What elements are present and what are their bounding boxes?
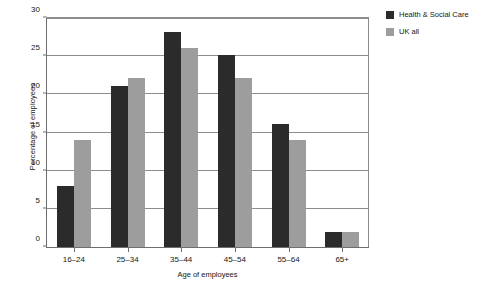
bar-groups: 16–2425–3435–4445–5455–6465+ — [47, 18, 369, 247]
bar-group: 16–24 — [47, 18, 101, 247]
bar — [181, 48, 198, 247]
bar-group: 25–34 — [101, 18, 155, 247]
bar-group: 35–44 — [154, 18, 208, 247]
legend-swatch-icon — [386, 11, 394, 19]
y-tick-label: 25 — [31, 43, 40, 52]
y-tick-label: 5 — [36, 195, 40, 204]
x-tick-label: 25–34 — [116, 255, 138, 264]
legend: Health & Social CareUK all — [386, 10, 476, 43]
x-tick-label: 16–24 — [63, 255, 85, 264]
bar — [342, 232, 359, 247]
bar — [74, 140, 91, 247]
y-tick-label: 10 — [31, 157, 40, 166]
bar-chart: Percentage of employees 051015202530 16–… — [0, 0, 479, 296]
legend-item[interactable]: Health & Social Care — [386, 10, 476, 20]
x-tick-label: 45–54 — [224, 255, 246, 264]
bar-group: 55–64 — [262, 18, 316, 247]
legend-item[interactable]: UK all — [386, 27, 476, 37]
bar — [111, 86, 128, 247]
x-tick-mark — [289, 247, 290, 252]
bar — [164, 32, 181, 247]
x-tick-mark — [235, 247, 236, 252]
y-tick-label: 15 — [31, 119, 40, 128]
bar — [289, 140, 306, 247]
x-tick-label: 35–44 — [170, 255, 192, 264]
x-tick-mark — [74, 247, 75, 252]
x-tick-label: 55–64 — [277, 255, 299, 264]
legend-item-label: UK all — [399, 27, 419, 37]
bar-group: 65+ — [315, 18, 369, 247]
x-tick-label: 65+ — [335, 255, 349, 264]
y-tick-label: 20 — [31, 81, 40, 90]
bar-group: 45–54 — [208, 18, 262, 247]
bar — [272, 124, 289, 247]
bar — [325, 232, 342, 247]
legend-swatch-icon — [386, 28, 394, 36]
y-tick-label: 30 — [31, 5, 40, 14]
plot-area: 051015202530 16–2425–3435–4445–5455–6465… — [46, 18, 369, 248]
bar — [128, 78, 145, 247]
y-tick-label: 0 — [36, 234, 40, 243]
x-axis-title: Age of employees — [46, 270, 369, 279]
x-tick-mark — [128, 247, 129, 252]
x-tick-mark — [181, 247, 182, 252]
x-tick-mark — [342, 247, 343, 252]
bar — [235, 78, 252, 247]
bar — [57, 186, 74, 247]
bar — [218, 55, 235, 247]
legend-item-label: Health & Social Care — [399, 10, 469, 20]
